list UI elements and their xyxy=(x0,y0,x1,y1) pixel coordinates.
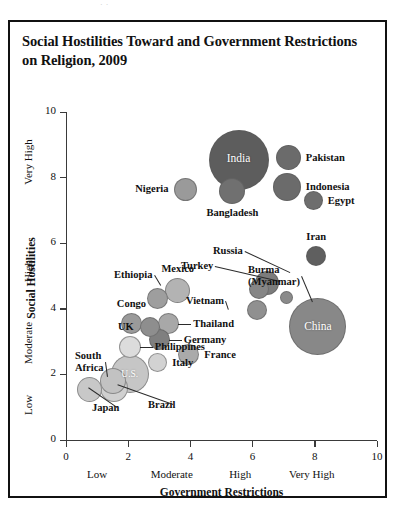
point-label-nigeria: Nigeria xyxy=(135,183,168,195)
point-label-bangladesh: Bangladesh xyxy=(206,207,258,219)
x-axis-line xyxy=(66,440,377,441)
y-category-label: Moderate xyxy=(22,313,34,373)
plot-area: Government Restrictions Social Hostiliti… xyxy=(0,0,395,506)
y-category-label: Very High xyxy=(22,132,34,192)
point-label-italy: Italy xyxy=(172,357,193,369)
point-label-egypt: Egypt xyxy=(328,195,355,207)
x-tick xyxy=(66,441,67,447)
y-tick xyxy=(60,374,66,375)
x-axis-title: Government Restrictions xyxy=(66,486,377,498)
x-tick xyxy=(314,441,315,447)
x-tick-label: 8 xyxy=(300,450,330,462)
point-label-france: France xyxy=(204,349,236,361)
point-label-russia: Russia xyxy=(213,245,243,257)
bubble-nigeria[interactable] xyxy=(174,178,197,201)
y-category-label: High xyxy=(22,241,34,301)
x-tick-label: 0 xyxy=(51,450,81,462)
y-tick xyxy=(60,177,66,178)
x-category-label: High xyxy=(200,468,280,480)
point-label-congo: Congo xyxy=(117,298,146,310)
chart-page: · · Social Hostilities Toward and Govern… xyxy=(0,0,395,506)
point-label-uk: UK xyxy=(118,321,134,333)
bubble-ethiopia[interactable] xyxy=(147,288,168,309)
y-tick xyxy=(60,112,66,113)
x-tick xyxy=(190,441,191,447)
bubble-philippines[interactable] xyxy=(119,336,141,358)
bubble-uk[interactable] xyxy=(140,317,160,337)
y-axis-line xyxy=(66,112,67,441)
x-tick-label: 10 xyxy=(362,450,392,462)
bubble-egypt[interactable] xyxy=(304,191,323,210)
x-tick-label: 6 xyxy=(238,450,268,462)
bubble-iran[interactable] xyxy=(306,246,326,266)
y-category-label: Low xyxy=(22,375,34,435)
point-label-pakistan: Pakistan xyxy=(306,152,345,164)
point-label-ethiopia: Ethiopia xyxy=(114,269,153,281)
y-tick-label: 10 xyxy=(30,104,56,116)
leader-burma-myanmar xyxy=(301,276,313,302)
point-label-germany: Germany xyxy=(184,334,227,346)
leader-thailand xyxy=(178,324,191,325)
x-tick-label: 2 xyxy=(113,450,143,462)
leader-vietnam xyxy=(225,301,229,310)
bubble-label-india: India xyxy=(179,152,299,164)
bubble-indonesia[interactable] xyxy=(273,173,301,201)
point-label-iran: Iran xyxy=(306,231,326,243)
x-tick xyxy=(377,441,378,447)
point-label-burma-myanmar: Burma(Myanmar) xyxy=(248,264,300,288)
x-tick xyxy=(252,441,253,447)
y-tick xyxy=(60,308,66,309)
x-tick xyxy=(128,441,129,447)
point-label-south-africa: SouthAfrica xyxy=(75,350,104,374)
point-label-vietnam: Vietnam xyxy=(186,295,224,307)
leader-ethiopia xyxy=(154,275,161,286)
point-label-japan: Japan xyxy=(92,402,119,414)
point-label-turkey: Turkey xyxy=(181,260,213,272)
bubble-label-china: China xyxy=(258,320,378,332)
x-category-label: Very High xyxy=(272,468,352,480)
y-tick-label: 4 xyxy=(30,301,56,313)
leader-germany xyxy=(169,340,182,341)
y-tick xyxy=(60,243,66,244)
leader-philippines xyxy=(140,347,153,348)
x-category-label: Low xyxy=(57,468,137,480)
bubble-burma-myanmar[interactable] xyxy=(280,291,293,304)
point-label-indonesia: Indonesia xyxy=(306,181,350,193)
x-tick-label: 4 xyxy=(175,450,205,462)
point-label-thailand: Thailand xyxy=(193,318,234,330)
bubble-vietnam[interactable] xyxy=(247,300,267,320)
bubble-bangladesh[interactable] xyxy=(219,178,245,204)
